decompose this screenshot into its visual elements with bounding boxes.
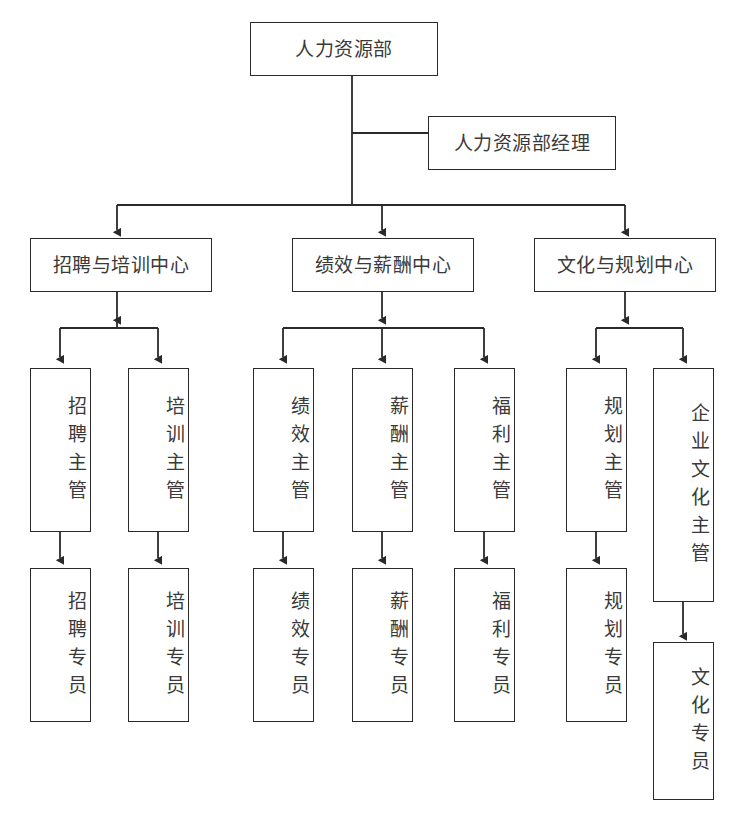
node-center-culture-plan[interactable]: 文化与规划中心 <box>534 238 716 292</box>
node-spec-recruit-label: 招聘专员 <box>61 591 90 703</box>
node-spec-benefit-label: 福利专员 <box>485 591 514 703</box>
node-sup-train-label: 培训主管 <box>159 396 188 508</box>
node-spec-comp-label: 薪酬专员 <box>383 591 412 703</box>
node-sup-perf-label: 绩效主管 <box>284 396 313 508</box>
node-center-recruit-train-label: 招聘与培训中心 <box>53 255 190 276</box>
node-sup-recruit-label: 招聘主管 <box>61 396 90 508</box>
node-spec-recruit[interactable]: 招聘专员 <box>30 568 91 722</box>
node-spec-train[interactable]: 培训专员 <box>128 568 189 722</box>
node-spec-train-label: 培训专员 <box>159 591 188 703</box>
node-spec-benefit[interactable]: 福利专员 <box>454 568 515 722</box>
node-center-culture-plan-label: 文化与规划中心 <box>557 255 694 276</box>
node-sup-recruit[interactable]: 招聘主管 <box>30 368 91 532</box>
node-hr-dept[interactable]: 人力资源部 <box>250 22 438 76</box>
node-sup-perf[interactable]: 绩效主管 <box>253 368 314 532</box>
node-sup-benefit[interactable]: 福利主管 <box>454 368 515 532</box>
org-chart-canvas: 人力资源部 人力资源部经理 招聘与培训中心 绩效与薪酬中心 文化与规划中心 招聘… <box>0 0 739 829</box>
node-spec-culture[interactable]: 文化专员 <box>653 642 714 800</box>
node-hr-manager[interactable]: 人力资源部经理 <box>428 116 616 170</box>
node-spec-perf[interactable]: 绩效专员 <box>253 568 314 722</box>
node-hr-manager-label: 人力资源部经理 <box>454 133 591 154</box>
node-center-perf-comp[interactable]: 绩效与薪酬中心 <box>292 238 474 292</box>
node-spec-comp[interactable]: 薪酬专员 <box>352 568 413 722</box>
node-sup-train[interactable]: 培训主管 <box>128 368 189 532</box>
node-spec-perf-label: 绩效专员 <box>284 591 313 703</box>
node-sup-culture[interactable]: 企业文化主管 <box>653 368 714 602</box>
node-spec-culture-label: 文化专员 <box>684 667 713 779</box>
node-sup-culture-label: 企业文化主管 <box>684 403 713 571</box>
node-spec-plan[interactable]: 规划专员 <box>566 568 627 722</box>
node-spec-plan-label: 规划专员 <box>597 591 626 703</box>
node-sup-comp-label: 薪酬主管 <box>383 396 412 508</box>
node-sup-plan[interactable]: 规划主管 <box>566 368 627 532</box>
node-center-perf-comp-label: 绩效与薪酬中心 <box>315 255 452 276</box>
node-sup-benefit-label: 福利主管 <box>485 396 514 508</box>
node-hr-dept-label: 人力资源部 <box>295 39 393 60</box>
node-sup-comp[interactable]: 薪酬主管 <box>352 368 413 532</box>
node-sup-plan-label: 规划主管 <box>597 396 626 508</box>
node-center-recruit-train[interactable]: 招聘与培训中心 <box>30 238 212 292</box>
